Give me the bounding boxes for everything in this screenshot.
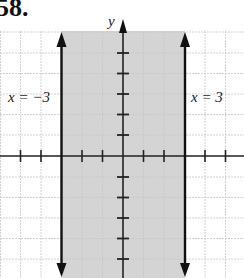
right-label-text: x = 3	[190, 89, 223, 105]
right-boundary-label: x = 3	[190, 89, 223, 105]
graph: y x = −3 x = 3	[0, 0, 244, 278]
left-label-text: x = −3	[7, 89, 50, 105]
y-axis-arrow-icon	[119, 19, 127, 33]
left-boundary-label: x = −3	[7, 89, 50, 105]
y-axis-label: y	[106, 13, 115, 29]
